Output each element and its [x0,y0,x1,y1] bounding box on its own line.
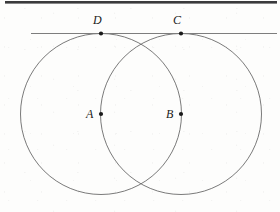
figure-background [0,0,280,212]
geometry-diagram [0,0,280,212]
point-a-dot [99,112,103,116]
point-c-label: C [173,14,181,26]
point-b-dot [179,112,183,116]
point-c-dot [179,31,183,35]
point-d-label: D [93,14,102,26]
point-d-dot [99,31,103,35]
point-a-label: A [86,108,93,120]
point-b-label: B [166,108,173,120]
figure-canvas: D C A B [0,0,280,212]
scan-edge-bar [5,1,277,4]
